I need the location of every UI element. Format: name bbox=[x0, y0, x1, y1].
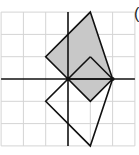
figure-label-fragment: ( bbox=[134, 6, 139, 22]
shaded-polygon bbox=[46, 12, 113, 101]
shaded-kite-shape bbox=[46, 12, 113, 101]
origin-point bbox=[66, 77, 70, 81]
vertex-point bbox=[111, 77, 115, 81]
axes bbox=[1, 12, 135, 146]
coordinate-grid-diagram bbox=[0, 0, 139, 155]
